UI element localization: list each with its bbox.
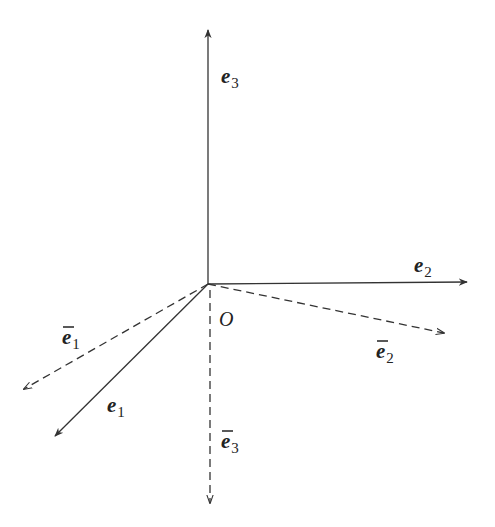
- vector-e1bar: [24, 284, 208, 389]
- labels-group: e3e2e1e1e2e3O: [62, 64, 432, 456]
- label-e1: e1: [107, 393, 125, 420]
- label-e2: e2: [414, 253, 432, 280]
- label-e3: e3: [221, 64, 239, 91]
- vector-e2: [208, 282, 467, 284]
- label-e1bar: e1: [62, 325, 80, 352]
- label-e2bar: e2: [376, 339, 394, 366]
- vector-e2bar: [208, 284, 444, 333]
- axes-group: [24, 30, 467, 503]
- vector-e1: [55, 284, 208, 436]
- origin-label: O: [219, 308, 233, 330]
- label-e3bar: e3: [221, 429, 239, 456]
- coordinate-frames-diagram: e3e2e1e1e2e3O: [0, 0, 495, 527]
